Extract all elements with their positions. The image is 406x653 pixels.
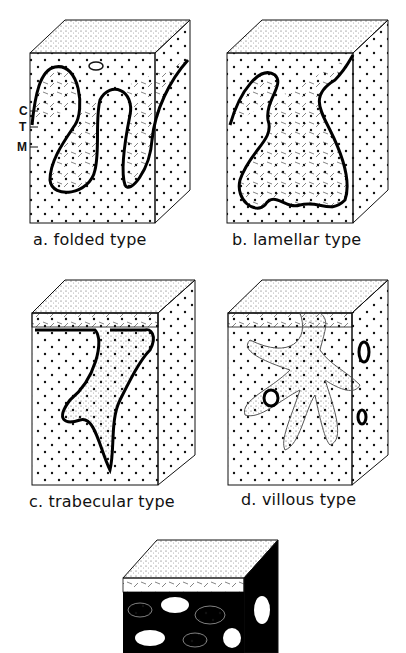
caption-b: b. lamellar type — [232, 230, 361, 249]
panel-b-lamellar-block — [227, 20, 388, 223]
caption-a: a. folded type — [33, 230, 147, 249]
caption-c: c. trabecular type — [29, 492, 175, 511]
caption-d: d. villous type — [241, 490, 356, 509]
layer-label-t: T — [19, 120, 26, 134]
panel-d-villous-block — [228, 280, 388, 485]
layer-label-c: C — [19, 104, 28, 118]
layer-label-m: M — [17, 140, 27, 154]
panel-c-trabecular-block — [32, 280, 195, 485]
figure-canvas — [0, 0, 406, 653]
panel-a-folded-block — [30, 20, 190, 223]
panel-e-spongy-block — [123, 540, 278, 653]
